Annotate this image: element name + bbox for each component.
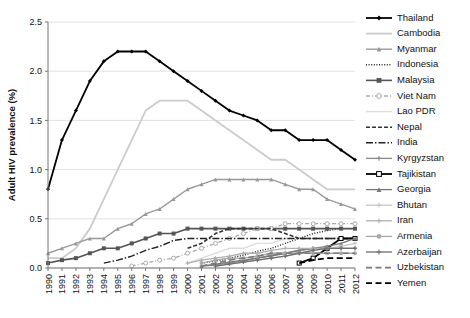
- legend-item-cambodia[interactable]: Cambodia: [366, 27, 441, 38]
- legend-label: Bhutan: [397, 199, 427, 210]
- data-point-marker: [283, 222, 287, 226]
- legend-label: Cambodia: [397, 27, 441, 38]
- legend-item-nepal[interactable]: Nepal: [366, 121, 422, 132]
- data-point-marker: [283, 246, 287, 250]
- chart-canvas: 0.00.51.01.52.02.5 199019911992199319941…: [0, 0, 470, 318]
- data-point-marker: [130, 50, 134, 54]
- data-point-marker: [186, 251, 190, 255]
- data-point-marker: [213, 241, 217, 245]
- legend-label: Tajikistan: [397, 168, 436, 179]
- data-point-marker: [377, 234, 382, 239]
- data-point-marker: [377, 78, 382, 83]
- data-point-marker: [311, 138, 315, 142]
- data-point-marker: [186, 227, 190, 231]
- legend-item-malaysia[interactable]: Malaysia: [366, 74, 435, 85]
- legend-item-myanmar[interactable]: Myanmar: [366, 43, 437, 54]
- legend-label: Georgia: [397, 183, 432, 194]
- data-point-marker: [74, 256, 78, 260]
- legend-item-georgia[interactable]: Georgia: [366, 183, 432, 194]
- data-point-marker: [60, 258, 64, 262]
- legend-label: Viet Nam: [397, 90, 436, 101]
- data-point-marker: [158, 232, 162, 236]
- axes: [45, 22, 355, 271]
- data-point-marker: [325, 222, 329, 226]
- data-point-marker: [353, 227, 357, 231]
- x-tick-label: 2008: [295, 274, 305, 294]
- legend-label: Kyrgyzstan: [397, 152, 444, 163]
- data-point-marker: [144, 236, 148, 240]
- data-point-marker: [200, 227, 204, 231]
- legend-label: Azerbaijan: [397, 246, 442, 257]
- legend-item-india[interactable]: India: [366, 136, 418, 147]
- x-tick-label: 2010: [323, 274, 333, 294]
- legend-label: Nepal: [397, 121, 422, 132]
- data-point-marker: [353, 246, 357, 250]
- legend-label: Uzbekistan: [397, 261, 444, 272]
- x-tick-label: 1994: [99, 274, 109, 294]
- x-tick-label: 2005: [253, 274, 263, 294]
- data-point-marker: [339, 227, 343, 231]
- data-point-marker: [158, 258, 162, 262]
- data-point-marker: [88, 251, 92, 255]
- x-axis-tick-labels: 1990199119921993199419951996199719981999…: [44, 274, 361, 294]
- legend-label: Armenia: [397, 230, 433, 241]
- x-tick-label: 2007: [281, 274, 291, 294]
- data-point-marker: [144, 261, 148, 265]
- data-point-marker: [241, 232, 245, 236]
- legend-item-thailand[interactable]: Thailand: [366, 12, 433, 23]
- x-tick-label: 2009: [309, 274, 319, 294]
- y-axis-tick-labels: 0.00.51.01.52.02.5: [29, 17, 42, 273]
- legend-item-azerbaijan[interactable]: Azerbaijan: [366, 246, 442, 257]
- x-tick-label: 2004: [239, 274, 249, 294]
- data-point-marker: [130, 241, 134, 245]
- x-tick-label: 1991: [57, 274, 67, 294]
- legend-label: Indonesia: [397, 58, 439, 69]
- x-tick-label: 1996: [127, 274, 137, 294]
- series-line: [48, 101, 355, 258]
- x-tick-label: 1998: [155, 274, 165, 294]
- series-line: [48, 179, 355, 253]
- data-point-marker: [116, 246, 120, 250]
- legend-label: Malaysia: [397, 74, 435, 85]
- legend-label: Thailand: [397, 12, 433, 23]
- data-point-marker: [377, 250, 382, 255]
- x-tick-label: 1999: [169, 274, 179, 294]
- legend-item-yemen[interactable]: Yemen: [366, 277, 426, 288]
- data-point-marker: [297, 227, 301, 231]
- gridlines: [48, 22, 355, 268]
- x-tick-label: 2012: [351, 274, 361, 294]
- legend-item-indonesia[interactable]: Indonesia: [366, 58, 439, 69]
- x-tick-label: 1997: [141, 274, 151, 294]
- legend-label: Yemen: [397, 277, 426, 288]
- series-cambodia: [48, 101, 355, 258]
- y-tick-label: 1.0: [29, 165, 42, 175]
- data-point-marker: [339, 236, 343, 240]
- x-tick-label: 2006: [267, 274, 277, 294]
- legend-item-bhutan[interactable]: Bhutan: [366, 199, 427, 210]
- data-point-marker: [377, 156, 382, 161]
- data-point-marker: [353, 222, 357, 226]
- data-series-layer: [46, 50, 357, 269]
- legend-item-uzbekistan[interactable]: Uzbekistan: [366, 261, 444, 272]
- data-point-marker: [377, 203, 382, 208]
- x-tick-label: 2001: [197, 274, 207, 294]
- data-point-marker: [172, 232, 176, 236]
- data-point-marker: [339, 251, 343, 255]
- data-point-marker: [377, 16, 382, 21]
- legend-item-kyrgyzstan[interactable]: Kyrgyzstan: [366, 152, 444, 163]
- data-point-marker: [325, 227, 329, 231]
- data-point-marker: [172, 256, 176, 260]
- y-tick-label: 0.5: [29, 214, 42, 224]
- data-point-marker: [377, 94, 382, 99]
- legend-label: Iran: [397, 214, 413, 225]
- legend-item-tajikistan[interactable]: Tajikistan: [366, 168, 436, 179]
- x-tick-label: 2002: [211, 274, 221, 294]
- legend-item-viet-nam[interactable]: Viet Nam: [366, 90, 436, 101]
- x-tick-label: 2011: [337, 274, 347, 293]
- legend-item-armenia[interactable]: Armenia: [366, 230, 433, 241]
- legend-label: Lao PDR: [397, 105, 436, 116]
- data-point-marker: [311, 222, 315, 226]
- legend-item-iran[interactable]: Iran: [366, 214, 413, 225]
- legend-item-lao-pdr[interactable]: Lao PDR: [366, 105, 436, 116]
- x-tick-label: 1990: [44, 274, 54, 294]
